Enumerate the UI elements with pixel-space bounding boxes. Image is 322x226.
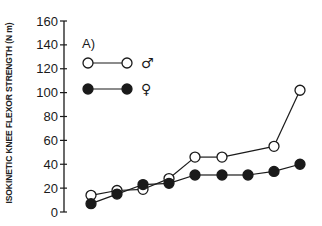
female-symbol-icon: ♀ bbox=[141, 81, 151, 97]
male-data-point bbox=[190, 152, 200, 162]
male-symbol-icon: ♂ bbox=[141, 55, 154, 71]
y-tick-label: 120 bbox=[36, 61, 58, 76]
y-tick-label: 40 bbox=[44, 157, 58, 172]
male-data-point bbox=[269, 141, 279, 151]
male-data-point bbox=[295, 85, 305, 95]
legend-marker bbox=[83, 58, 93, 68]
female-data-point bbox=[269, 166, 279, 176]
y-axis: 020406080100120140160 bbox=[36, 14, 67, 220]
female-data-point bbox=[86, 199, 96, 209]
female-data-point bbox=[217, 170, 227, 180]
male-data-point bbox=[217, 152, 227, 162]
y-tick-label: 160 bbox=[36, 14, 58, 29]
legend: ♂♀ bbox=[83, 55, 154, 97]
y-tick-label: 140 bbox=[36, 37, 58, 52]
female-data-point bbox=[295, 159, 305, 169]
y-tick-label: 60 bbox=[44, 133, 58, 148]
y-tick-label: 0 bbox=[51, 205, 58, 220]
y-tick-label: 20 bbox=[44, 181, 58, 196]
panel-label: A) bbox=[82, 36, 95, 51]
female-data-point bbox=[243, 170, 253, 180]
female-data-point bbox=[190, 170, 200, 180]
legend-marker bbox=[122, 58, 132, 68]
female-data-point bbox=[138, 180, 148, 190]
line-chart: 020406080100120140160 ♂♀ A) bbox=[0, 0, 322, 226]
female-data-point bbox=[164, 178, 174, 188]
female-data-point bbox=[112, 189, 122, 199]
series-points bbox=[86, 85, 305, 208]
y-tick-label: 80 bbox=[44, 109, 58, 124]
legend-marker bbox=[83, 84, 93, 94]
y-tick-label: 100 bbox=[36, 85, 58, 100]
legend-marker bbox=[122, 84, 132, 94]
